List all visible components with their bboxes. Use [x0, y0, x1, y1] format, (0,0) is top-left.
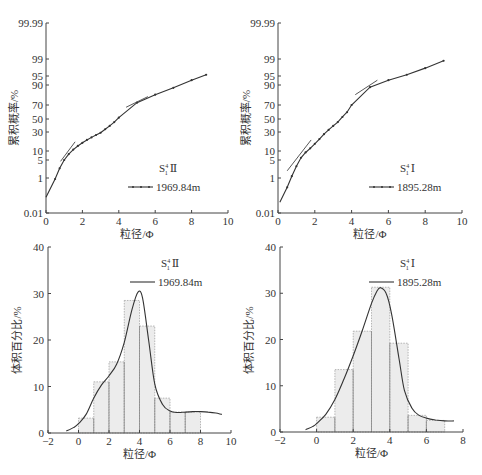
legend-label: 1895.28m [397, 181, 442, 193]
x-tick-label: 6 [152, 215, 158, 227]
y-tick-label: 70 [32, 99, 44, 111]
x-tick-label: 0 [275, 215, 281, 227]
data-point [191, 79, 193, 81]
data-point [332, 125, 334, 127]
figure-svg: 0.01151030507090959999.990246810粒径/Φ累积概率… [0, 0, 482, 475]
sample-label: S41Ⅰ [400, 162, 415, 176]
data-point [300, 157, 302, 159]
data-point [77, 145, 79, 147]
data-point [63, 159, 65, 161]
y-tick-label: 20 [265, 334, 277, 346]
y-tick-label: 0.01 [256, 207, 275, 219]
data-point [72, 149, 74, 151]
histogram-bar [353, 331, 371, 432]
cumulative-probability-chart-right: 0.01151030507090959999.990246810粒径/Φ累积概率… [239, 17, 468, 240]
data-point [205, 74, 207, 76]
y-tick-label: 10 [264, 145, 276, 157]
x-tick-label: 4 [387, 434, 393, 446]
data-point [95, 134, 97, 136]
data-point [100, 132, 102, 134]
data-point [369, 86, 371, 88]
y-tick-label: 1 [38, 172, 44, 184]
y-tick-label: 99 [32, 53, 44, 65]
x-axis-label: 粒径/Φ [123, 447, 156, 460]
data-point [337, 121, 339, 123]
y-axis-label: 体积百分比/% [242, 306, 255, 373]
y-axis-label: 累积概率/% [7, 90, 20, 146]
data-point [318, 138, 320, 140]
cumulative-probability-chart-left: 0.01151030507090959999.990246810粒径/Φ累积概率… [7, 17, 234, 240]
histogram-bar [426, 420, 444, 432]
x-tick-label: 0 [314, 434, 320, 446]
x-tick-label: 6 [167, 435, 173, 447]
data-point [406, 74, 408, 76]
x-tick-label: 2 [106, 435, 112, 447]
histogram-bar [317, 417, 335, 432]
x-tick-label: 8 [422, 215, 428, 227]
figure-canvas: 0.01151030507090959999.990246810粒径/Φ累积概率… [0, 0, 482, 475]
x-tick-label: 6 [386, 215, 392, 227]
legend-label: 1969.84m [158, 276, 203, 288]
data-point [305, 151, 307, 153]
grain-size-histogram-left: 010203040−20246810粒径/Φ体积百分比/%S41Ⅱ1969.84… [10, 241, 237, 460]
data-point [118, 117, 120, 119]
histogram-bar [140, 326, 155, 433]
legend-label: 1895.28m [397, 276, 442, 288]
data-point [443, 60, 445, 62]
x-tick-label: 2 [350, 434, 356, 446]
y-tick-label: 0.01 [24, 207, 43, 219]
data-point [309, 147, 311, 149]
histogram-bar [170, 412, 185, 433]
x-axis-label: 粒径/Φ [120, 227, 153, 240]
data-point [154, 94, 156, 96]
y-tick-label: 99 [264, 53, 276, 65]
y-axis-label: 体积百分比/% [10, 306, 23, 373]
y-tick-label: 10 [33, 381, 45, 393]
x-tick-label: 10 [226, 435, 238, 447]
sample-label: S41Ⅱ [159, 162, 177, 176]
x-axis-label: 粒径/Φ [353, 227, 386, 240]
legend-label: 1969.84m [156, 181, 201, 193]
y-tick-label: 40 [33, 241, 45, 253]
y-tick-label: 40 [265, 241, 277, 253]
y-tick-label: 30 [265, 287, 277, 299]
y-tick-label: 95 [264, 70, 276, 82]
data-point [86, 139, 88, 141]
x-tick-label: 8 [460, 434, 466, 446]
y-tick-label: 50 [32, 113, 44, 125]
data-point [104, 128, 106, 130]
y-tick-label: 30 [264, 126, 276, 138]
histogram-bar [94, 382, 109, 433]
histogram-bar [185, 412, 200, 433]
segment-line [287, 140, 311, 171]
y-tick-label: 95 [32, 70, 44, 82]
data-point [424, 67, 426, 69]
y-tick-label: 30 [32, 126, 44, 138]
y-tick-label: 20 [33, 334, 45, 346]
sample-label: S41Ⅱ [161, 257, 179, 271]
segment-line [61, 142, 76, 162]
x-tick-label: 8 [198, 435, 204, 447]
x-tick-label: 4 [349, 215, 355, 227]
histogram-bar [79, 418, 94, 433]
x-axis-label: 粒径/Φ [355, 446, 388, 459]
x-tick-label: −2 [274, 434, 286, 446]
data-point [387, 79, 389, 81]
x-tick-label: 8 [189, 215, 195, 227]
y-tick-label: 30 [33, 288, 45, 300]
data-point [295, 165, 297, 167]
y-tick-label: 1 [270, 172, 276, 184]
data-point [314, 143, 316, 145]
y-tick-label: 70 [264, 99, 276, 111]
x-tick-label: 0 [43, 215, 49, 227]
data-point [328, 129, 330, 131]
x-tick-label: 4 [116, 215, 122, 227]
y-tick-label: 99.99 [18, 17, 43, 29]
segment-line [126, 97, 148, 108]
data-point [172, 87, 174, 89]
y-tick-label: 10 [32, 145, 44, 157]
x-tick-label: 10 [223, 215, 235, 227]
data-point [286, 186, 288, 188]
data-point [68, 153, 70, 155]
sample-label: S41Ⅰ [400, 257, 415, 271]
